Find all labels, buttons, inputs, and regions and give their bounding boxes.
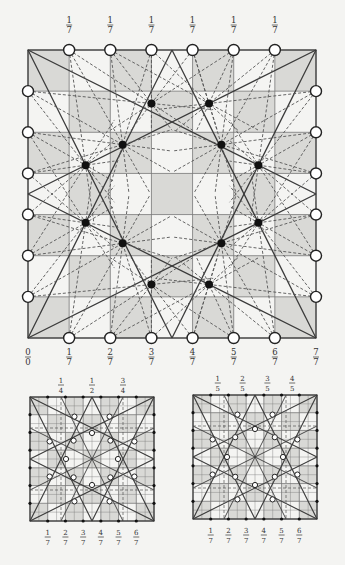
intersection-dot	[119, 141, 127, 149]
bottom-label-numerator: 3	[81, 529, 85, 537]
bottom-label-numerator: 3	[149, 347, 154, 357]
edge-tick-dot	[209, 393, 212, 396]
boundary-point-circle	[311, 86, 322, 97]
ring-point-circle	[235, 497, 240, 502]
boundary-point-circle	[311, 209, 322, 220]
top-label-numerator: 1	[231, 15, 236, 25]
edge-tick-dot	[315, 447, 318, 450]
bottom-label-denominator: 7	[108, 357, 113, 367]
top-label-denominator: 7	[190, 25, 195, 35]
ring-point-circle	[89, 430, 94, 435]
ring-point-circle	[210, 472, 215, 477]
ring-point-circle	[107, 499, 112, 504]
boundary-point-circle	[146, 333, 157, 344]
bottom-label-numerator: 1	[66, 347, 71, 357]
bottom-label-denominator: 7	[297, 537, 301, 545]
shaded-cell	[275, 50, 316, 91]
bottom-label-denominator: 7	[66, 357, 71, 367]
top-label-numerator: 1	[216, 375, 220, 383]
edge-tick-dot	[28, 449, 31, 452]
top-label-numerator: 1	[272, 15, 277, 25]
edge-tick-dot	[152, 413, 155, 416]
figure: 1717171717170017273747576777 14123417273…	[0, 0, 345, 565]
bottom-label-denominator: 7	[63, 539, 67, 547]
bottom-label-numerator: 3	[244, 527, 248, 535]
top-label-denominator: 4	[121, 387, 126, 395]
edge-tick-dot	[191, 411, 194, 414]
top-label-numerator: 1	[190, 15, 195, 25]
top-label-denominator: 7	[272, 25, 277, 35]
edge-tick-dot	[82, 519, 85, 522]
edge-tick-dot	[64, 519, 67, 522]
top-label-numerator: 1	[90, 377, 94, 385]
edge-tick-dot	[28, 502, 31, 505]
bottom-label-numerator: 5	[279, 527, 283, 535]
shaded-cell	[193, 215, 234, 256]
edge-tick-dot	[227, 393, 230, 396]
shaded-cell	[28, 50, 69, 91]
bottom-label-numerator: 5	[116, 529, 120, 537]
ring-point-circle	[272, 435, 277, 440]
bottom-label-denominator: 7	[279, 537, 283, 545]
shaded-cell	[275, 297, 316, 338]
top-label-numerator: 1	[66, 15, 71, 25]
bottom-label-numerator: 6	[272, 347, 277, 357]
boundary-point-circle	[311, 250, 322, 261]
bottom-label-numerator: 1	[208, 527, 212, 535]
boundary-point-circle	[64, 45, 75, 56]
boundary-point-circle	[187, 333, 198, 344]
bottom-label-numerator: 6	[134, 529, 139, 537]
ring-point-circle	[210, 437, 215, 442]
top-label-numerator: 2	[240, 375, 244, 383]
bottom-label-denominator: 7	[134, 539, 138, 547]
bottom-label-denominator: 7	[81, 539, 85, 547]
edge-tick-dot	[28, 413, 31, 416]
ring-point-circle	[47, 439, 52, 444]
bottom-label-denominator: 7	[99, 539, 103, 547]
edge-tick-dot	[245, 517, 248, 520]
bottom-label-numerator: 0	[25, 347, 30, 357]
bottom-label-denominator: 7	[149, 357, 154, 367]
edge-tick-dot	[298, 517, 301, 520]
boundary-point-circle	[23, 209, 34, 220]
top-label-denominator: 5	[290, 385, 294, 393]
shaded-cell	[110, 215, 151, 256]
intersection-dot	[82, 219, 90, 227]
shaded-cell	[151, 173, 192, 214]
top-label-numerator: 3	[121, 377, 125, 385]
edge-tick-dot	[117, 519, 120, 522]
ring-point-circle	[224, 454, 229, 459]
boundary-point-circle	[269, 333, 280, 344]
edge-tick-dot	[280, 393, 283, 396]
bottom-label-denominator: 7	[262, 537, 266, 545]
ring-point-circle	[108, 475, 113, 480]
bottom-label-numerator: 2	[63, 529, 67, 537]
ring-point-circle	[63, 456, 68, 461]
boundary-point-circle	[311, 291, 322, 302]
intersection-dot	[82, 161, 90, 169]
top-label-denominator: 7	[108, 25, 113, 35]
top-label-numerator: 3	[265, 375, 269, 383]
boundary-point-circle	[311, 127, 322, 138]
intersection-dot	[119, 239, 127, 247]
edge-tick-dot	[28, 466, 31, 469]
edge-tick-dot	[191, 429, 194, 432]
boundary-point-circle	[23, 250, 34, 261]
edge-tick-dot	[135, 519, 138, 522]
ring-point-circle	[115, 456, 120, 461]
edge-tick-dot	[135, 395, 138, 398]
edge-tick-dot	[152, 449, 155, 452]
boundary-point-circle	[23, 291, 34, 302]
bottom-label-denominator: 7	[272, 357, 277, 367]
bottom-label-denominator: 7	[116, 539, 120, 547]
intersection-dot	[254, 219, 262, 227]
boundary-point-circle	[23, 86, 34, 97]
edge-tick-dot	[315, 482, 318, 485]
edge-tick-dot	[99, 519, 102, 522]
bottom-label-numerator: 1	[45, 529, 49, 537]
boundary-point-circle	[146, 45, 157, 56]
bottom-label-denominator: 7	[244, 537, 248, 545]
intersection-dot	[147, 99, 155, 107]
edge-tick-dot	[191, 482, 194, 485]
intersection-dot	[205, 281, 213, 289]
